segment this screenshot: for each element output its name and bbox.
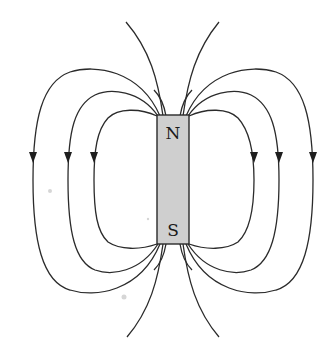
field-line-left-outer bbox=[33, 69, 160, 293]
field-line-bottom-left-open bbox=[127, 244, 163, 337]
scan-speck bbox=[48, 189, 52, 193]
field-line-left-inner bbox=[94, 110, 157, 248]
arrow-down-icon bbox=[309, 152, 317, 163]
arrow-down-icon bbox=[90, 152, 98, 163]
arrow-down-icon bbox=[275, 152, 283, 163]
field-line-right-middle bbox=[188, 92, 279, 273]
south-pole-label: S bbox=[167, 220, 179, 240]
field-line-right-inner bbox=[189, 110, 254, 248]
field-line-right-outer bbox=[186, 69, 313, 293]
scan-speck bbox=[122, 295, 127, 300]
field-line-bottom-right-open bbox=[183, 244, 219, 337]
north-pole-label: N bbox=[166, 123, 181, 143]
arrow-down-icon bbox=[29, 152, 37, 163]
arrow-down-icon bbox=[64, 152, 72, 163]
bar-magnet-field-diagram: N S bbox=[0, 0, 332, 349]
scan-speck bbox=[147, 218, 149, 220]
arrow-down-icon bbox=[250, 152, 258, 163]
